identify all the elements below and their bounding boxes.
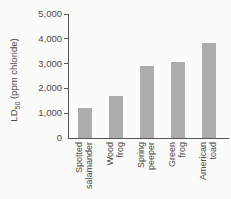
bar — [109, 96, 123, 138]
x-axis-category-label: Spottedsalamander — [74, 142, 94, 194]
x-axis-category-label: Woodfrog — [105, 142, 125, 194]
y-axis-tick-label: 2,000 — [0, 82, 62, 93]
x-axis-category-label: Springpeeper — [136, 142, 156, 194]
x-axis-category-label-line: toad — [208, 142, 218, 194]
x-axis-category-label-line: Spring — [136, 142, 146, 194]
plot-area — [68, 14, 229, 139]
y-axis-tick-label: 5,000 — [0, 8, 62, 19]
y-axis-tick-label: 0 — [0, 132, 62, 143]
x-axis-category-label: Greenfrog — [167, 142, 187, 194]
x-axis-category-label-line: frog — [115, 142, 125, 194]
y-axis-tick — [64, 113, 68, 114]
x-axis-category-label-line: salamander — [84, 142, 94, 194]
y-axis-tick-label: 4,000 — [0, 33, 62, 44]
bar-chart: LD50 (ppm chloride) 01,0002,0003,0004,00… — [0, 0, 231, 199]
bar — [202, 43, 216, 138]
x-axis-category-label-line: Spotted — [74, 142, 84, 194]
y-axis-tick — [64, 63, 68, 64]
y-axis-tick — [64, 38, 68, 39]
y-axis-tick — [64, 14, 68, 15]
x-axis-category-label-line: American — [198, 142, 208, 194]
bar — [78, 108, 92, 138]
y-axis-tick-label: 3,000 — [0, 58, 62, 69]
x-axis-category-label-line: frog — [177, 142, 187, 194]
y-axis-tick — [64, 88, 68, 89]
x-axis-category-label-line: Green — [167, 142, 177, 194]
bar — [140, 66, 154, 138]
x-axis-category-label-line: Wood — [105, 142, 115, 194]
x-axis-category-label: Americantoad — [198, 142, 218, 194]
bar — [171, 62, 185, 138]
y-axis-tick-label: 1,000 — [0, 107, 62, 118]
x-axis-category-label-line: peeper — [146, 142, 156, 194]
